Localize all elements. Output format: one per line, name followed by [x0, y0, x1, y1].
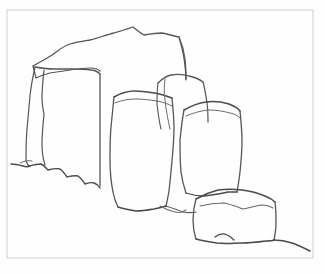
paper-background: [0, 0, 325, 274]
artwork-container: Pencil line drawing of standing stone bl…: [0, 0, 325, 274]
line-drawing-canvas: [0, 0, 325, 274]
